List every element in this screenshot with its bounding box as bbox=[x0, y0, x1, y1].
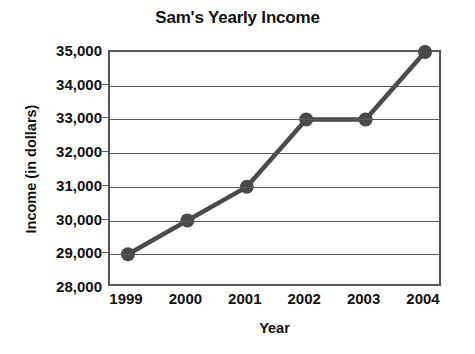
chart-title: Sam's Yearly Income bbox=[0, 8, 475, 28]
y-axis-tick-marks bbox=[0, 50, 110, 286]
data-series-overlay bbox=[110, 52, 443, 288]
gridline bbox=[110, 119, 439, 120]
gridline bbox=[110, 86, 439, 87]
gridline bbox=[110, 221, 439, 222]
line-chart: Sam's Yearly Income Income (in dollars) … bbox=[0, 0, 475, 354]
data-point-marker bbox=[418, 45, 432, 59]
plot-area bbox=[108, 50, 441, 286]
gridline bbox=[110, 153, 439, 154]
gridline bbox=[110, 254, 439, 255]
gridline bbox=[110, 187, 439, 188]
x-axis-title: Year bbox=[108, 320, 441, 336]
x-axis-tick-label: 2004 bbox=[388, 290, 458, 307]
x-axis-tick-labels: 199920002001200220032004 bbox=[108, 290, 441, 314]
